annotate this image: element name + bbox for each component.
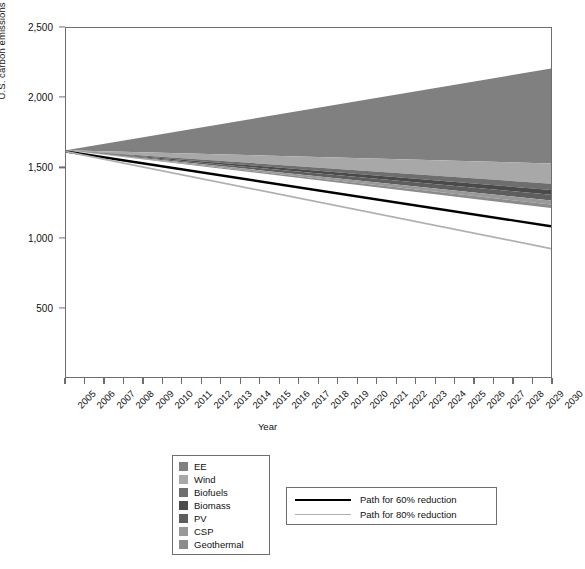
x-tick-mark (473, 378, 474, 384)
x-tick-label: 2019 (348, 388, 371, 411)
legend-item-biomass[interactable]: Biomass (179, 499, 263, 512)
x-tick-label: 2010 (173, 388, 196, 411)
x-tick-mark (337, 378, 338, 384)
x-tick-mark (396, 378, 397, 384)
legend-swatch-icon (179, 462, 188, 471)
x-tick-mark (415, 378, 416, 384)
x-tick-mark (493, 378, 494, 384)
legend-item-geothermal[interactable]: Geothermal (179, 538, 263, 551)
x-tick-label: 2027 (504, 388, 527, 411)
x-tick-label: 2015 (270, 388, 293, 411)
legend-item-label: Path for 80% reduction (360, 508, 457, 521)
x-axis-title: Year (0, 421, 571, 432)
legend-swatch-icon (179, 514, 188, 523)
x-tick-mark (532, 378, 533, 384)
x-tick-label: 2011 (192, 388, 214, 410)
legend-paths: Path for 60% reductionPath for 80% reduc… (286, 487, 497, 525)
x-tick-mark (201, 378, 202, 384)
x-tick-label: 2016 (289, 388, 312, 411)
legend-item-label: Biomass (194, 499, 230, 512)
x-tick-mark (357, 378, 358, 384)
x-tick-label: 2020 (367, 388, 390, 411)
legend-item-csp[interactable]: CSP (179, 525, 263, 538)
x-tick-label: 2012 (212, 388, 235, 411)
legend-item-label: Geothermal (194, 538, 244, 551)
x-tick-mark (318, 378, 319, 384)
wedge-ee (66, 68, 551, 163)
x-tick-mark (103, 378, 104, 384)
legend-line-icon (295, 514, 351, 515)
legend-item-path-80[interactable]: Path for 80% reduction (295, 507, 488, 522)
x-tick-mark (162, 378, 163, 384)
x-tick-label: 2023 (426, 388, 449, 411)
legend-swatch-icon (179, 488, 188, 497)
wedge-areas (66, 28, 551, 377)
y-tick-label: 2,500 (0, 22, 61, 33)
x-tick-mark (220, 378, 221, 384)
legend-item-label: EE (194, 460, 207, 473)
legend-line-icon (295, 499, 351, 501)
legend-wedges: EEWindBiofuelsBiomassPVCSPGeothermal (172, 455, 270, 555)
legend-item-label: Path for 60% reduction (360, 493, 457, 506)
x-tick-mark (376, 378, 377, 384)
legend-item-label: PV (194, 512, 207, 525)
x-tick-mark (454, 378, 455, 384)
legend-item-pv[interactable]: PV (179, 512, 263, 525)
x-tick-mark (298, 378, 299, 384)
x-tick-mark (142, 378, 143, 384)
x-tick-mark (435, 378, 436, 384)
x-tick-label: 2009 (153, 388, 176, 411)
y-tick-label: 1,500 (0, 162, 61, 173)
x-tick-mark (123, 378, 124, 384)
legend-item-ee[interactable]: EE (179, 460, 263, 473)
legend-swatch-icon (179, 540, 188, 549)
x-tick-mark (279, 378, 280, 384)
x-tick-label: 2026 (484, 388, 507, 411)
x-tick-label: 2007 (114, 388, 137, 411)
plot-area (65, 27, 552, 378)
x-tick-mark (181, 378, 182, 384)
x-tick-label: 2014 (251, 388, 274, 411)
legend-swatch-icon (179, 475, 188, 484)
x-tick-mark (240, 378, 241, 384)
y-tick-label: 500 (0, 302, 61, 313)
x-tick-mark (84, 378, 85, 384)
legend-swatch-icon (179, 527, 188, 536)
x-tick-mark (64, 378, 65, 384)
x-tick-label: 2022 (406, 388, 429, 411)
legend-item-label: CSP (194, 525, 214, 538)
y-tick-label: 2,000 (0, 92, 61, 103)
x-tick-label: 2018 (328, 388, 351, 411)
legend-item-biofuels[interactable]: Biofuels (179, 486, 263, 499)
x-tick-label: 2029 (543, 388, 566, 411)
x-tick-label: 2006 (95, 388, 118, 411)
legend-swatch-icon (179, 501, 188, 510)
x-tick-mark (551, 378, 552, 384)
x-tick-label: 2008 (134, 388, 157, 411)
x-tick-label: 2025 (465, 388, 488, 411)
x-tick-label: 2028 (523, 388, 546, 411)
y-tick-label: 1,000 (0, 232, 61, 243)
x-tick-mark (259, 378, 260, 384)
x-tick-mark (512, 378, 513, 384)
x-axis-title-text: Year (258, 421, 277, 432)
legend-item-path-60[interactable]: Path for 60% reduction (295, 492, 488, 507)
x-tick-label: 2030 (562, 388, 585, 411)
legend-item-label: Wind (194, 473, 216, 486)
x-tick-label: 2005 (75, 388, 98, 411)
legend-item-wind[interactable]: Wind (179, 473, 263, 486)
x-tick-label: 2017 (309, 388, 332, 411)
x-tick-label: 2013 (231, 388, 254, 411)
x-tick-label: 2024 (445, 388, 468, 411)
legend-item-label: Biofuels (194, 486, 228, 499)
x-tick-label: 2021 (387, 388, 410, 411)
